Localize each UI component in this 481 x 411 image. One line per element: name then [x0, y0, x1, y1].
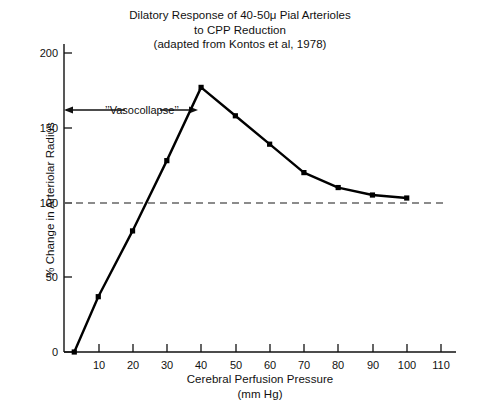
x-tick-label-20: 20 — [127, 359, 139, 371]
x-axis-units-text: (mm Hg) — [120, 387, 400, 402]
x-axis-title: Cerebral Perfusion Pressure (mm Hg) — [120, 372, 400, 401]
x-tick-label-50: 50 — [230, 359, 242, 371]
x-axis-ticks — [99, 344, 441, 352]
vasocollapse-annotation: ’’Vasocollapse’’ — [64, 104, 198, 116]
data-point — [370, 192, 375, 197]
data-point — [267, 142, 272, 147]
data-point — [233, 113, 238, 118]
x-tick-label-80: 80 — [332, 359, 344, 371]
x-tick-label-30: 30 — [161, 359, 173, 371]
x-axis-title-text: Cerebral Perfusion Pressure — [120, 372, 400, 387]
data-point — [404, 195, 409, 200]
series-markers-arteriolar-radius — [72, 85, 410, 355]
y-axis-title-text: % Change in Arteriolar Radius — [44, 122, 56, 278]
y-tick-label-0: 0 — [52, 346, 58, 358]
x-axis-tick-labels: 10 20 30 40 50 60 70 80 90 100 110 — [93, 359, 450, 371]
data-point — [198, 85, 203, 90]
data-point — [130, 228, 135, 233]
data-point — [336, 185, 341, 190]
x-tick-label-10: 10 — [93, 359, 105, 371]
x-tick-label-110: 110 — [432, 359, 450, 371]
data-point — [301, 170, 306, 175]
x-tick-label-70: 70 — [298, 359, 310, 371]
x-tick-label-100: 100 — [398, 359, 416, 371]
series-line-arteriolar-radius — [74, 87, 406, 352]
data-point — [96, 294, 101, 299]
figure-container: Dilatory Response of 40-50μ Pial Arterio… — [0, 0, 481, 411]
x-tick-label-40: 40 — [195, 359, 207, 371]
y-axis-title: % Change in Arteriolar Radius — [40, 90, 58, 310]
vasocollapse-label: ’’Vasocollapse’’ — [105, 104, 179, 116]
data-point — [72, 349, 77, 354]
chart-plot-area: 0 50 100 150 200 10 20 30 40 50 60 — [0, 0, 481, 411]
vasocollapse-arrow-left-head — [64, 107, 73, 114]
x-tick-label-90: 90 — [367, 359, 379, 371]
x-tick-label-60: 60 — [264, 359, 276, 371]
y-tick-label-200: 200 — [40, 47, 58, 59]
data-point — [164, 158, 169, 163]
